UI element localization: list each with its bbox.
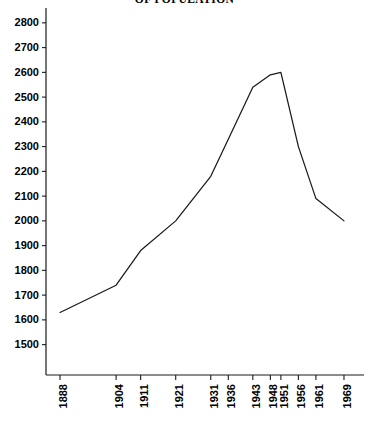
x-axis-tick-label: 1951 [278, 384, 290, 408]
chart-plot-area: 2800270026002500240023002200210020001900… [0, 0, 369, 439]
y-axis-labels: 2800270026002500240023002200210020001900… [15, 16, 39, 350]
y-axis-tick-label: 1800 [15, 264, 39, 276]
population-series-line [60, 72, 344, 312]
x-axis-tick-label: 1969 [341, 384, 353, 408]
x-axis-tick-label: 1904 [113, 383, 125, 408]
y-axis-tick-label: 2500 [15, 91, 39, 103]
x-axis-labels: 1888190419111921193119361943194819511956… [57, 383, 353, 408]
x-axis-tick-label: 1931 [208, 384, 220, 408]
y-axis-tick-label: 1600 [15, 313, 39, 325]
y-axis-tick-label: 2400 [15, 115, 39, 127]
y-axis-tick-label: 2700 [15, 41, 39, 53]
x-axis-tick-label: 1956 [295, 384, 307, 408]
x-axis-tick-label: 1921 [173, 384, 185, 408]
y-axis-tick-label: 2000 [15, 214, 39, 226]
y-axis-tick-label: 2300 [15, 140, 39, 152]
x-axis-tick-label: 1888 [57, 384, 69, 408]
x-axis-tick-label: 1911 [138, 384, 150, 408]
y-axis-tick-label: 1700 [15, 289, 39, 301]
y-axis-tick-label: 2800 [15, 16, 39, 28]
x-axis-tick-label: 1936 [225, 384, 237, 408]
x-axis-ticks [60, 375, 344, 380]
y-axis-tick-label: 1900 [15, 239, 39, 251]
x-axis-tick-label: 1961 [313, 384, 325, 408]
x-axis-tick-label: 1943 [250, 384, 262, 408]
y-axis-tick-label: 2200 [15, 165, 39, 177]
y-axis-tick-label: 2600 [15, 66, 39, 78]
y-axis-tick-label: 1500 [15, 338, 39, 350]
y-axis-tick-label: 2100 [15, 190, 39, 202]
population-line-chart: OF POPULATION 28002700260025002400230022… [0, 0, 369, 439]
